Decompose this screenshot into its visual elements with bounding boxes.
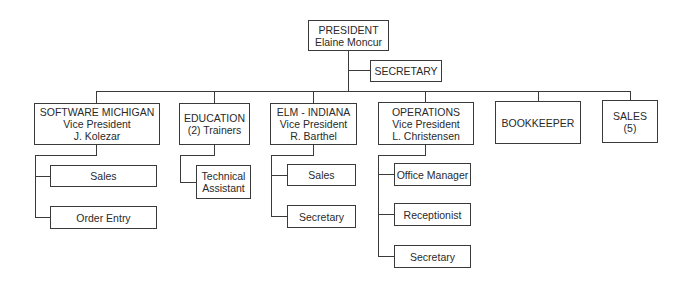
receptionist-box: Receptionist: [394, 203, 471, 226]
connector-software-order: [35, 217, 50, 218]
connector-ops-sub-h: [378, 155, 426, 156]
president-title: PRESIDENT: [318, 24, 378, 36]
sub-unit-label: Receptionist: [404, 209, 462, 221]
connector-education-sub-h: [180, 155, 215, 156]
connector-education-sub-v: [180, 155, 181, 183]
software-sales-box: Sales: [50, 165, 157, 187]
connector-elm-secretary: [271, 216, 287, 217]
department-head: L. Christensen: [392, 130, 460, 142]
department-head: R. Barthel: [290, 130, 337, 142]
office-manager-box: Office Manager: [394, 163, 471, 186]
connector-president-down: [348, 50, 349, 92]
sub-unit-label: Sales: [308, 169, 334, 181]
department-role: (5): [624, 122, 637, 134]
sub-unit-label: Order Entry: [76, 212, 130, 224]
operations-box: OPERATIONS Vice President L. Christensen: [378, 102, 474, 145]
elm-indiana-box: ELM - INDIANA Vice President R. Barthel: [270, 103, 357, 145]
sub-unit-label: Assistant: [202, 182, 245, 194]
bookkeeper-box: BOOKKEEPER: [495, 101, 581, 144]
president-box: PRESIDENT Elaine Moncur: [308, 20, 389, 51]
connector-sales: [630, 91, 631, 100]
president-name: Elaine Moncur: [315, 36, 382, 48]
connector-software: [96, 91, 97, 103]
connector-elm: [313, 91, 314, 103]
connector-operations: [425, 91, 426, 102]
sub-unit-label: Secretary: [299, 211, 344, 223]
connector-elm-sub-v: [271, 155, 272, 217]
department-role: Vice President: [280, 118, 348, 130]
connector-ops-office: [378, 174, 394, 175]
education-box: EDUCATION (2) Trainers: [179, 103, 250, 145]
department-head: J. Kolezar: [74, 130, 121, 142]
software-michigan-box: SOFTWARE MICHIGAN Vice President J. Kole…: [34, 103, 160, 145]
connector-ops-secretary: [378, 256, 394, 257]
connector-ops-sub: [425, 145, 426, 155]
department-role: Vice President: [63, 118, 131, 130]
department-title: SOFTWARE MICHIGAN: [40, 106, 155, 118]
software-order-entry-box: Order Entry: [50, 206, 157, 229]
sub-unit-label: Technical: [202, 170, 246, 182]
connector-elm-sales: [271, 175, 287, 176]
elm-secretary-box: Secretary: [287, 205, 356, 228]
connector-education-tech: [180, 182, 196, 183]
department-title: OPERATIONS: [392, 106, 460, 118]
connector-software-sales: [35, 176, 50, 177]
department-title: SALES: [613, 110, 647, 122]
sales-box: SALES (5): [602, 100, 658, 143]
department-title: BOOKKEEPER: [502, 117, 575, 129]
connector-software-sub: [96, 145, 97, 155]
department-role: Vice President: [392, 118, 460, 130]
secretary-title: SECRETARY: [374, 65, 437, 77]
operations-secretary-box: Secretary: [394, 245, 471, 268]
sub-unit-label: Office Manager: [397, 169, 469, 181]
connector-elm-sub: [313, 145, 314, 155]
connector-bookkeeper: [538, 91, 539, 101]
connector-department-bus: [96, 91, 631, 92]
connector-ops-reception: [378, 214, 394, 215]
connector-education: [214, 91, 215, 103]
department-role: (2) Trainers: [188, 124, 242, 136]
connector-software-sub-h: [35, 155, 97, 156]
sub-unit-label: Secretary: [410, 251, 455, 263]
elm-sales-box: Sales: [287, 164, 356, 186]
connector-ops-sub-v: [378, 155, 379, 257]
department-title: ELM - INDIANA: [277, 106, 351, 118]
connector-education-sub: [214, 145, 215, 155]
connector-elm-sub-h: [271, 155, 314, 156]
sub-unit-label: Sales: [90, 170, 116, 182]
connector-secretary: [348, 70, 370, 71]
secretary-box: SECRETARY: [370, 60, 442, 82]
department-title: EDUCATION: [184, 112, 245, 124]
technical-assistant-box: Technical Assistant: [196, 165, 251, 199]
connector-software-sub-v: [35, 155, 36, 218]
